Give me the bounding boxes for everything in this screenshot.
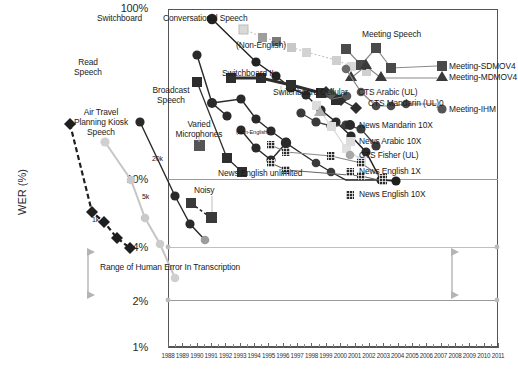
y-axis-title: WER (%) <box>16 169 28 215</box>
annotation-read-speech-line2: Speech <box>62 68 114 77</box>
annotation-20k: 20k <box>152 154 163 163</box>
x-tick-minor <box>405 344 406 347</box>
x-tick-minor <box>333 344 334 347</box>
x-tick-minor <box>175 344 176 347</box>
x-tick-minor <box>261 344 262 347</box>
x-tick-minor <box>319 344 320 347</box>
gridline-10pct <box>168 179 498 180</box>
x-tick-2010 <box>484 343 485 348</box>
x-tick-1998 <box>311 343 312 348</box>
annotation-air-travel-line3: Speech <box>62 128 140 137</box>
annotation-non-english-mid: (Non-English) <box>236 128 269 137</box>
y-tick-2: 2% <box>100 295 148 307</box>
x-tick-1994 <box>254 343 255 348</box>
x-tick-2003 <box>383 343 384 348</box>
x-tick-1999 <box>326 343 327 348</box>
annotation-broadcast-line1: Broadcast <box>142 86 200 95</box>
x-tick-minor <box>448 344 449 347</box>
x-tick-minor <box>362 344 363 347</box>
x-tick-minor <box>276 344 277 347</box>
x-tick-minor <box>204 344 205 347</box>
series-air-travel-kiosk <box>64 118 136 254</box>
x-tick-minor <box>247 344 248 347</box>
legend-label-news-mandarin-10x: News Mandarin 10X <box>359 120 433 130</box>
legend-label-ihm: Meeting-IHM <box>449 104 496 114</box>
annotation-varied-mic-line2: Microphones <box>166 130 232 139</box>
legend-label-news-arabic-10x: News Arabic 10X <box>359 136 421 146</box>
x-tick-1995 <box>268 343 269 348</box>
x-tick-2011 <box>498 343 499 348</box>
x-tick-minor <box>190 344 191 347</box>
x-tick-2009 <box>469 343 470 348</box>
x-tick-2005 <box>412 343 413 348</box>
annotation-air-travel-line1: Air Travel <box>62 108 140 117</box>
chart-root: WER (%) 100% 10% 4% 2% 1% <box>0 0 518 373</box>
annotation-read-speech-line1: Read <box>62 58 114 67</box>
annotation-varied-mic-line1: Varied <box>166 120 232 129</box>
annotation-human-error-range: Range of Human Error In Transcription <box>100 263 240 272</box>
y-tick-1: 1% <box>100 341 148 353</box>
annotation-switchboard-ii: Switchboard II <box>222 69 274 78</box>
x-tick-1993 <box>240 343 241 348</box>
legend-label-cts-fisher: CTS Fisher (UL) <box>359 150 418 160</box>
x-tick-1990 <box>197 343 198 348</box>
x-tick-1996 <box>283 343 284 348</box>
x-tick-1991 <box>211 343 212 348</box>
x-tick-1989 <box>182 343 183 348</box>
annotation-meeting-speech: Meeting Speech <box>362 30 421 39</box>
x-tick-2001 <box>355 343 356 348</box>
annotation-5k: 5k <box>142 192 149 201</box>
x-tick-2002 <box>369 343 370 348</box>
legend-label-mdmov4: Meeting-MDMOV4 <box>449 72 517 82</box>
annotation-1k: 1k <box>92 215 99 224</box>
x-tick-minor <box>347 344 348 347</box>
legend-label-sdmov4: Meeting-SDMOV4 <box>449 61 516 71</box>
gridline-4pct <box>168 247 498 248</box>
x-tick-minor <box>376 344 377 347</box>
x-tick-minor <box>304 344 305 347</box>
x-tick-minor <box>462 344 463 347</box>
x-tick-minor <box>476 344 477 347</box>
annotation-cts-mandarin: CTS Mandarin (UL)0 <box>368 99 443 108</box>
x-axis-line <box>168 347 498 348</box>
annotation-switchboard-cellular: Switchboard Cellular <box>273 88 348 97</box>
x-tick-2007 <box>441 343 442 348</box>
x-tick-minor <box>419 344 420 347</box>
annotation-non-english-top: (Non-English) <box>236 41 286 50</box>
x-tick-1992 <box>225 343 226 348</box>
x-tick-2000 <box>340 343 341 348</box>
x-tick-1988 <box>168 343 169 348</box>
x-tick-2008 <box>455 343 456 348</box>
y-tick-10: 10% <box>94 173 148 185</box>
x-tick-minor <box>433 344 434 347</box>
annotation-noisy: Noisy <box>194 186 214 195</box>
annotation-news-english-unlimited: News English unlimited <box>218 169 302 178</box>
x-tick-minor <box>390 344 391 347</box>
annotation-air-travel-line2: Planning Kiosk <box>62 118 140 127</box>
y-tick-4: 4% <box>100 241 148 253</box>
annotation-cts-arabic: CTS Arabic (UL) <box>358 88 417 97</box>
x-tick-1997 <box>297 343 298 348</box>
x-tick-label-2011: 2011 <box>487 352 509 359</box>
x-tick-minor <box>218 344 219 347</box>
x-tick-minor <box>290 344 291 347</box>
x-tick-2004 <box>398 343 399 348</box>
x-tick-minor <box>233 344 234 347</box>
annotation-switchboard: Switchboard <box>97 14 142 23</box>
annotation-broadcast-line2: Speech <box>142 96 200 105</box>
legend-label-news-english-1x: News English 1X <box>359 166 421 176</box>
x-tick-minor <box>491 344 492 347</box>
legend-label-news-english-10x: News English 10X <box>359 189 425 199</box>
annotation-conversational-speech: Conversational Speech <box>163 14 248 23</box>
x-tick-2006 <box>426 343 427 348</box>
gridline-2pct <box>168 300 498 301</box>
